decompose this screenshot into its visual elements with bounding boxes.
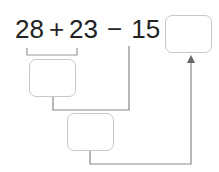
equation: 28+23−15= xyxy=(15,14,186,45)
partial-sum-box[interactable] xyxy=(29,59,76,97)
operand-23: 23 xyxy=(69,14,98,45)
answer-box[interactable] xyxy=(165,15,212,53)
bracket-28-plus-23 xyxy=(27,48,77,55)
operand-15: 15 xyxy=(131,14,160,45)
minus-sign: − xyxy=(107,14,122,45)
arrow-up-icon xyxy=(187,55,195,63)
partial-difference-box[interactable] xyxy=(67,113,114,151)
plus-sign: + xyxy=(49,14,64,45)
operand-28: 28 xyxy=(15,14,44,45)
